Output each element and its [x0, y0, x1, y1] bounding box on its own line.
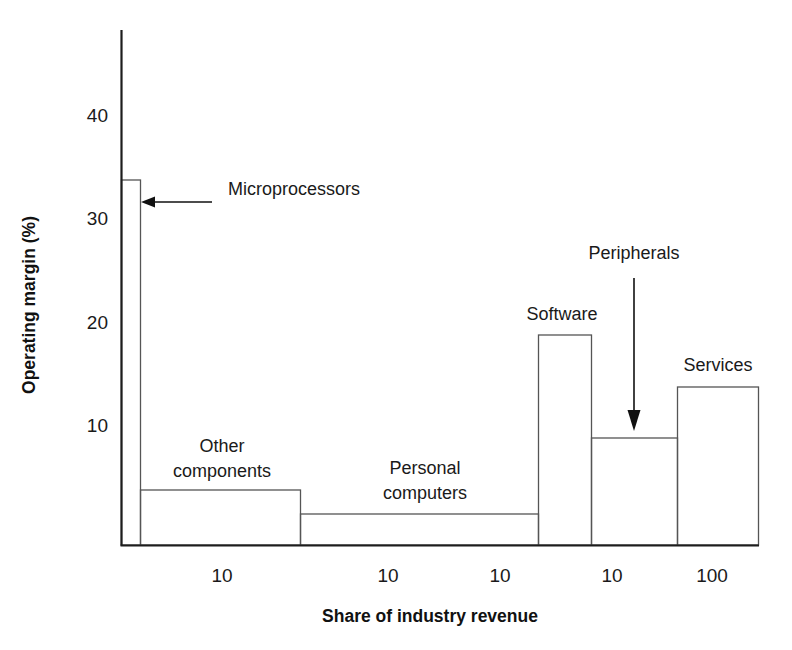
x-axis-title: Share of industry revenue	[322, 606, 538, 626]
series-label-other-components-line1: Other	[199, 436, 244, 456]
arrow-left-icon	[141, 197, 212, 208]
series-label-microprocessors: Microprocessors	[228, 179, 360, 199]
y-axis-title: Operating margin (%)	[19, 216, 39, 394]
series-label-personal-computers-line2: computers	[383, 483, 467, 503]
series-label-other-components-line2: components	[173, 461, 271, 481]
series-label-software: Software	[526, 304, 597, 324]
x-tick-label-2: 10	[377, 565, 398, 586]
bar-personal-computers	[301, 514, 539, 545]
bar-microprocessors	[122, 180, 141, 545]
chart-figure: 40 30 20 10 10 10 10 10 100 Share of ind…	[0, 0, 792, 650]
bar-chart-svg: 40 30 20 10 10 10 10 10 100 Share of ind…	[0, 0, 792, 650]
y-tick-label-30: 30	[87, 208, 108, 229]
bar-other-components	[141, 490, 301, 545]
y-tick-label-10: 10	[87, 415, 108, 436]
y-tick-labels: 40 30 20 10	[87, 105, 108, 436]
x-tick-label-3: 10	[489, 565, 510, 586]
bar-peripherals	[592, 438, 678, 545]
bar-software	[539, 335, 592, 545]
arrow-down-icon	[628, 278, 641, 431]
y-tick-label-20: 20	[87, 312, 108, 333]
y-tick-label-40: 40	[87, 105, 108, 126]
bar-services	[678, 387, 759, 545]
x-tick-label-1: 10	[211, 565, 232, 586]
series-label-services: Services	[683, 355, 752, 375]
series-label-personal-computers-line1: Personal	[389, 458, 460, 478]
x-tick-labels: 10 10 10 10 100	[211, 565, 727, 586]
x-tick-label-5: 100	[696, 565, 728, 586]
x-tick-label-4: 10	[601, 565, 622, 586]
series-label-peripherals: Peripherals	[588, 243, 679, 263]
